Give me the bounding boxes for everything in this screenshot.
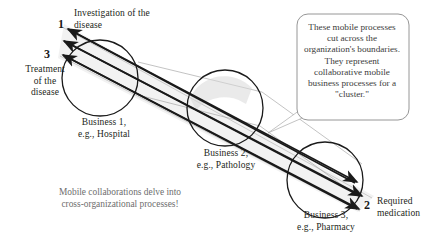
tube-shade-business-2: [190, 76, 252, 110]
flow-label-1: Investigation of the disease: [74, 8, 184, 31]
flow-label-2: Required medication: [377, 196, 439, 219]
bottom-note: Mobile collaborations delve into cross-o…: [30, 186, 210, 210]
business-1-label: Business 1, e.g., Hospital: [56, 117, 152, 140]
flow-label-3: Treatment of the disease: [12, 64, 78, 99]
diagram-canvas: Investigation of the disease 1 Treatment…: [0, 0, 440, 241]
callout-text: These mobile processes cut across the or…: [302, 22, 402, 100]
business-2-label: Business 2, e.g., Pathology: [174, 148, 278, 171]
flow-number-3: 3: [44, 47, 50, 62]
tube-shading: [190, 76, 252, 110]
business-3-label: Business 3, e.g., Pharmacy: [274, 210, 378, 233]
flow-number-1: 1: [58, 17, 64, 32]
